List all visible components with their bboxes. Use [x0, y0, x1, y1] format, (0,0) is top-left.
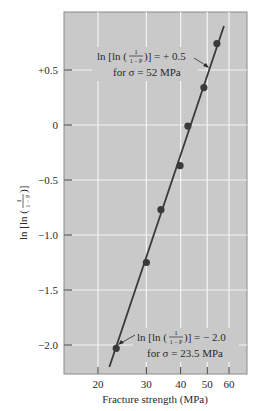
annotation-lower-frac-den: 1 − P: [170, 339, 183, 345]
data-point: [157, 206, 164, 213]
y-axis-title: ln [ln ( 1 1 − P )]: [15, 186, 31, 240]
annotation-lower-line2: for σ = 23.5 MPa: [147, 347, 223, 359]
chart: +0.50−0.5−1.0−1.5−2.0 2030405060 ln [ln …: [0, 0, 262, 411]
annotation-lower-line1: ln [ln (: [137, 331, 167, 344]
annotation-upper-frac-num: 1: [134, 48, 138, 56]
svg-text:ln [ln (: ln [ln (: [17, 210, 30, 240]
data-point: [143, 259, 150, 266]
annotation-lower-frac-num: 1: [174, 329, 178, 337]
y-tick-label: −2.0: [38, 339, 58, 351]
annotation-upper: ln [ln ( 1 1 − P )] = + 0.5 for σ = 52 M…: [92, 47, 209, 81]
data-point: [184, 123, 191, 130]
x-tick-label: 40: [175, 378, 187, 390]
y-tick-label: −1.0: [38, 229, 58, 241]
annotation-upper-frac-den: 1 − P: [130, 58, 143, 64]
x-tick-label: 60: [224, 378, 236, 390]
svg-text:)]: )]: [17, 186, 30, 193]
x-tick-label: 20: [93, 378, 105, 390]
annotation-upper-line2: for σ = 52 MPa: [113, 66, 181, 78]
y-tick-label: 0: [53, 119, 59, 131]
x-tick-label: 30: [141, 378, 153, 390]
y-tick-label: −0.5: [38, 174, 58, 186]
x-tick-label: 50: [202, 378, 214, 390]
annotation-lower-suffix: )] = − 2.0: [184, 331, 226, 344]
x-axis-title: Fracture strength (MPa): [102, 393, 208, 406]
svg-text:1 − P: 1 − P: [25, 194, 31, 207]
data-point: [176, 162, 183, 169]
annotation-upper-line1: ln [ln (: [97, 50, 127, 63]
svg-text:1: 1: [15, 199, 23, 203]
data-point: [213, 40, 220, 47]
data-point: [200, 84, 207, 91]
annotation-lower: ln [ln ( 1 1 − P )] = − 2.0 for σ = 23.5…: [118, 328, 239, 362]
y-tick-label: −1.5: [38, 284, 58, 296]
annotation-upper-suffix: )] = + 0.5: [144, 50, 186, 63]
data-point: [113, 345, 120, 352]
y-tick-label: +0.5: [38, 64, 58, 76]
